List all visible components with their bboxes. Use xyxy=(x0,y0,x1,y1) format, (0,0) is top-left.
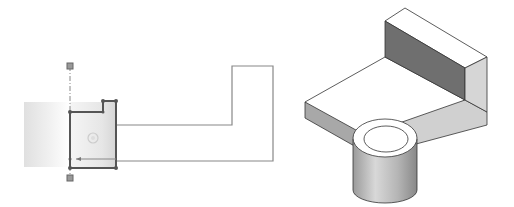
centerline-handle-bottom[interactable] xyxy=(67,175,73,181)
model-canvas xyxy=(290,0,514,207)
origin-dot xyxy=(91,136,95,140)
centerline-handle-top[interactable] xyxy=(67,63,73,69)
model-view xyxy=(290,0,514,207)
l-profile-outline[interactable] xyxy=(116,66,273,161)
sketch-canvas xyxy=(0,0,290,207)
sketch-view xyxy=(0,0,290,207)
cylinder-preview-left xyxy=(24,102,70,167)
boss-hole xyxy=(364,126,408,152)
